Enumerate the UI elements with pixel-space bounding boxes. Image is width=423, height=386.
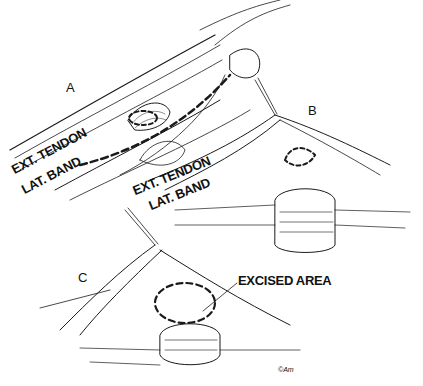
label-excised-area: EXCISED AREA [238,273,331,288]
illustration-canvas [0,0,423,386]
panel-label-c: C [78,270,87,285]
panel-label-a: A [66,80,75,95]
panel-label-b: B [308,103,317,118]
artist-signature: ©Am [278,366,294,373]
